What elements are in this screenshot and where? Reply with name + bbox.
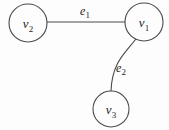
edge-e2-label: e2 (116, 61, 126, 77)
edge-e1-label: e1 (80, 4, 90, 20)
vertex-v1-subscript: 1 (145, 23, 150, 33)
vertex-v2-subscript: 2 (29, 24, 34, 34)
edge-e2-curve (111, 40, 136, 92)
edge-e1-subscript: 1 (85, 10, 90, 20)
graph-canvas: v1 v2 v3 e1 e2 (0, 0, 169, 130)
graph-figure: v1 v2 v3 e1 e2 (0, 0, 169, 130)
edge-e2-subscript: 2 (121, 67, 126, 77)
vertex-v3-subscript: 3 (112, 110, 117, 120)
